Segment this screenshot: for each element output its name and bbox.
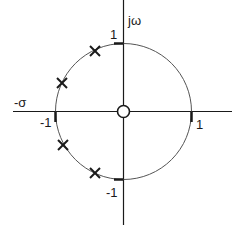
pole-marker-2: [57, 78, 67, 88]
tick-label-left: -1: [40, 115, 52, 130]
pole-marker-4: [90, 168, 100, 178]
imaginary-axis-label: jω: [127, 13, 141, 28]
tick-label-top: 1: [110, 27, 117, 42]
real-axis-label: -σ: [14, 95, 26, 110]
tick-label-right: 1: [196, 117, 203, 132]
s-plane-diagram: jω -σ 1 -1 1 -1: [0, 0, 246, 231]
tick-label-bottom: -1: [106, 185, 118, 200]
zero-marker: [118, 106, 130, 118]
